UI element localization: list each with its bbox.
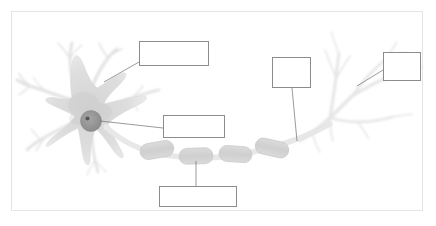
label-box-myelin[interactable]: [159, 186, 237, 207]
myelin-segment: [218, 145, 252, 163]
leader-lines-group: [100, 62, 383, 186]
label-box-nucleus[interactable]: [163, 115, 225, 138]
nucleus: [81, 111, 102, 132]
label-box-dendrite[interactable]: [139, 41, 209, 66]
screenshot-canvas: [0, 0, 436, 226]
axon-leader-line: [292, 88, 297, 141]
label-box-terminal[interactable]: [383, 52, 421, 81]
soma: [46, 56, 147, 165]
label-box-axon[interactable]: [272, 57, 311, 88]
axon-terminals-group: [300, 32, 423, 152]
myelin-segment: [254, 136, 291, 159]
nucleolus: [85, 116, 89, 120]
myelin-sheath-group: [139, 136, 290, 164]
